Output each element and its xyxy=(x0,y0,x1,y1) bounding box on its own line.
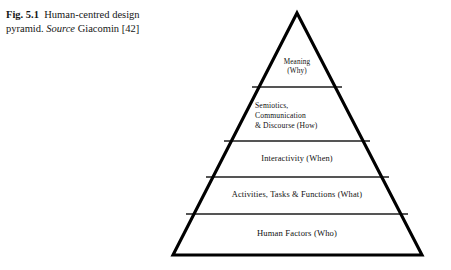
pyramid-tier-label-human-factors: Human Factors (Who) xyxy=(257,229,337,239)
pyramid-tier-label-meaning: Meaning (Why) xyxy=(284,58,311,77)
pyramid-tier-label-activities: Activities, Tasks & Functions (What) xyxy=(232,190,363,200)
pyramid-body xyxy=(173,13,422,255)
pyramid-diagram: Meaning (Why) Semiotics, Communication &… xyxy=(0,0,451,270)
pyramid-tier-label-interactivity: Interactivity (When) xyxy=(261,154,333,164)
pyramid-graphic xyxy=(0,0,451,270)
pyramid-tier-label-semiotics: Semiotics, Communication & Discourse (Ho… xyxy=(255,101,317,132)
